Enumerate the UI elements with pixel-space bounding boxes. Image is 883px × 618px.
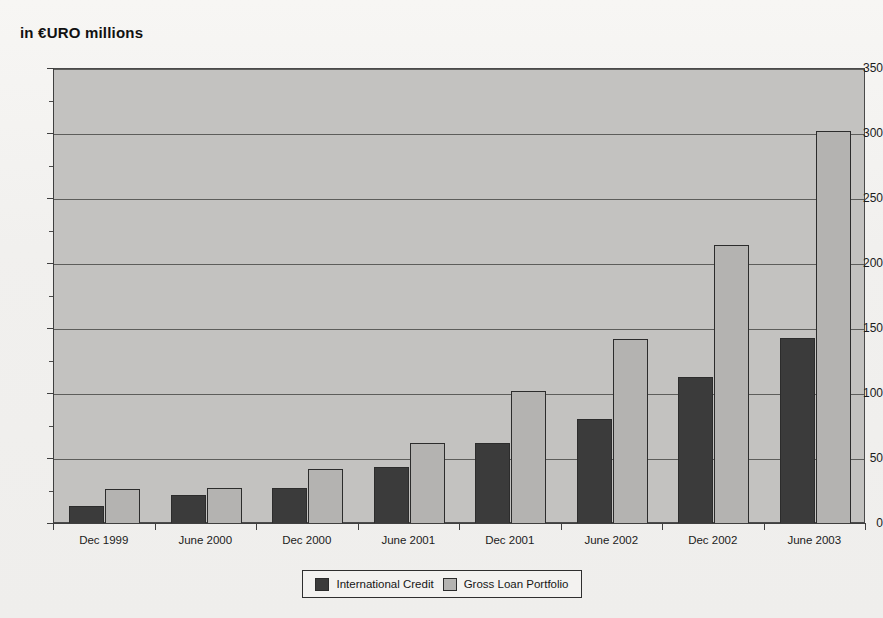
x-axis-tick-label: Dec 1999 xyxy=(79,534,128,546)
y-axis-tick-mark xyxy=(47,263,53,264)
chart-title: in €URO millions xyxy=(20,24,143,41)
x-axis-tick-mark xyxy=(764,523,765,530)
x-axis-tick-label: June 2002 xyxy=(584,534,638,546)
bar-international-credit xyxy=(374,467,409,524)
y-axis-line xyxy=(53,68,54,524)
y-axis-minor-tick xyxy=(49,296,53,297)
bar-international-credit xyxy=(272,488,307,524)
gridline xyxy=(54,69,864,70)
x-axis-tick-label: Dec 2002 xyxy=(688,534,737,546)
y-axis-minor-tick xyxy=(49,231,53,232)
x-axis-tick-label: Dec 2001 xyxy=(485,534,534,546)
chart-figure: in €URO millions 050100150200250300350 D… xyxy=(0,0,883,618)
y-axis-tick-label: 250 xyxy=(839,191,883,205)
y-axis-tick-mark xyxy=(47,198,53,199)
gridline xyxy=(54,199,864,200)
y-axis-tick-label: 150 xyxy=(839,321,883,335)
x-axis-tick-mark xyxy=(256,523,257,530)
bar-international-credit xyxy=(171,495,206,524)
x-axis-tick-mark xyxy=(459,523,460,530)
y-axis-minor-tick xyxy=(49,491,53,492)
legend-label: International Credit xyxy=(336,578,433,590)
plot-area xyxy=(53,68,865,523)
y-axis-minor-tick xyxy=(49,166,53,167)
legend-swatch-icon xyxy=(315,578,329,591)
y-axis-tick-mark xyxy=(47,458,53,459)
legend-entry[interactable]: International Credit xyxy=(315,578,433,591)
bar-gross-loan-portfolio xyxy=(714,245,749,525)
y-axis-tick-label: 50 xyxy=(839,451,883,465)
x-axis-tick-label: June 2000 xyxy=(178,534,232,546)
x-axis-tick-mark xyxy=(865,523,866,530)
chart-legend: International CreditGross Loan Portfolio xyxy=(302,570,582,598)
legend-swatch-icon xyxy=(443,578,457,591)
x-axis-tick-label: Dec 2000 xyxy=(282,534,331,546)
y-axis-tick-label: 300 xyxy=(839,126,883,140)
legend-entry[interactable]: Gross Loan Portfolio xyxy=(443,578,569,591)
x-axis-tick-mark xyxy=(561,523,562,530)
bar-gross-loan-portfolio xyxy=(207,488,242,524)
x-axis-tick-label: June 2003 xyxy=(787,534,841,546)
bar-international-credit xyxy=(577,419,612,524)
x-axis-tick-mark xyxy=(662,523,663,530)
bar-international-credit xyxy=(475,443,510,524)
y-axis-minor-tick xyxy=(49,101,53,102)
y-axis-tick-label: 200 xyxy=(839,256,883,270)
bar-gross-loan-portfolio xyxy=(613,339,648,524)
bar-international-credit xyxy=(780,338,815,524)
y-axis-tick-label: 100 xyxy=(839,386,883,400)
x-axis-tick-mark xyxy=(155,523,156,530)
bar-gross-loan-portfolio xyxy=(308,469,343,524)
x-axis-tick-mark xyxy=(358,523,359,530)
bar-gross-loan-portfolio xyxy=(410,443,445,524)
y-axis-tick-mark xyxy=(47,328,53,329)
bar-international-credit xyxy=(678,377,713,524)
x-axis-tick-label: June 2001 xyxy=(381,534,435,546)
bar-international-credit xyxy=(69,506,104,524)
legend-label: Gross Loan Portfolio xyxy=(464,578,569,590)
y-axis-tick-mark xyxy=(47,68,53,69)
y-axis-tick-label: 0 xyxy=(839,516,883,530)
bar-gross-loan-portfolio xyxy=(511,391,546,524)
y-axis-tick-mark xyxy=(47,133,53,134)
gridline xyxy=(54,134,864,135)
bar-gross-loan-portfolio xyxy=(105,489,140,524)
y-axis-minor-tick xyxy=(49,426,53,427)
y-axis-minor-tick xyxy=(49,361,53,362)
y-axis-tick-label: 350 xyxy=(839,61,883,75)
x-axis-tick-mark xyxy=(53,523,54,530)
y-axis-tick-mark xyxy=(47,393,53,394)
